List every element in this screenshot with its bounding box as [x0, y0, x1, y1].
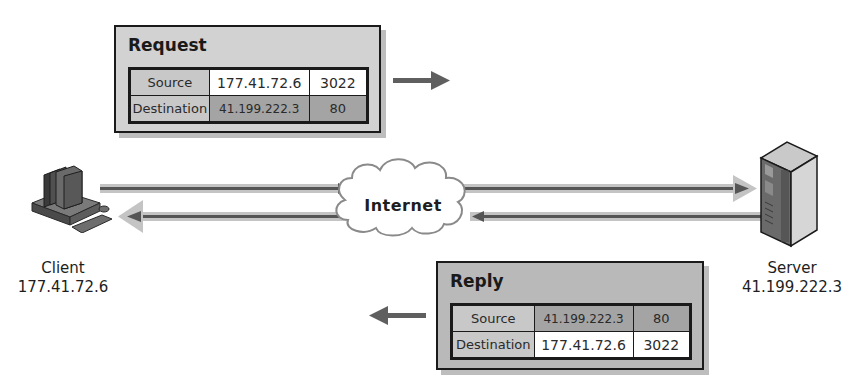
reply-packet-box: Reply Source 41.199.222.3 80 Destination… — [436, 261, 704, 370]
reply-row-source: Source 41.199.222.3 80 — [452, 305, 691, 332]
reply-source-port: 80 — [633, 305, 691, 332]
network-connection-graphic — [0, 140, 862, 250]
reply-direction-arrow-icon — [368, 305, 426, 327]
server-caption: Server 41.199.222.3 — [722, 259, 862, 297]
request-direction-arrow-icon — [393, 70, 451, 92]
request-title: Request — [128, 35, 207, 55]
server-ip: 41.199.222.3 — [722, 278, 862, 297]
request-row-source: Source 177.41.72.6 3022 — [130, 69, 368, 96]
reply-title: Reply — [450, 271, 504, 291]
server-tower-icon — [759, 140, 819, 248]
reply-destination-label: Destination — [452, 332, 535, 359]
client-ip: 177.41.72.6 — [0, 278, 126, 297]
internet-label: Internet — [360, 196, 446, 215]
request-table: Source 177.41.72.6 3022 Destination 41.1… — [128, 67, 369, 124]
server-name: Server — [722, 259, 862, 278]
desktop-computer-icon — [30, 163, 112, 233]
request-source-port: 3022 — [309, 69, 367, 96]
client-caption: Client 177.41.72.6 — [0, 259, 126, 297]
request-packet-box: Request Source 177.41.72.6 3022 Destinat… — [114, 25, 381, 133]
request-destination-ip: 41.199.222.3 — [209, 96, 309, 123]
reply-row-destination: Destination 177.41.72.6 3022 — [452, 332, 691, 359]
request-destination-port: 80 — [309, 96, 367, 123]
client-name: Client — [0, 259, 126, 278]
reply-destination-ip: 177.41.72.6 — [534, 332, 633, 359]
request-destination-label: Destination — [130, 96, 210, 123]
request-row-destination: Destination 41.199.222.3 80 — [130, 96, 368, 123]
request-source-ip: 177.41.72.6 — [209, 69, 309, 96]
reply-table: Source 41.199.222.3 80 Destination 177.4… — [450, 303, 692, 360]
return-line-left — [118, 200, 350, 233]
request-source-label: Source — [130, 69, 210, 96]
reply-source-label: Source — [452, 305, 535, 332]
reply-destination-port: 3022 — [633, 332, 691, 359]
outbound-line-right — [460, 175, 757, 202]
reply-source-ip: 41.199.222.3 — [534, 305, 633, 332]
return-line-right — [470, 211, 763, 222]
outbound-line-left — [100, 183, 350, 194]
